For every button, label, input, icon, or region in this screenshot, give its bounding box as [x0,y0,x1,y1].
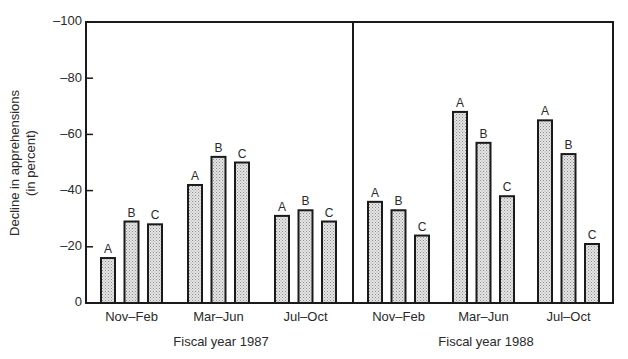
bar-series-label: C [588,228,597,242]
bar-fiscal-year-1987-2-a [275,216,289,303]
y-axis-ticks: 0–20–40–60–80–100 [53,13,93,309]
x-category-label: Nov–Feb [105,309,158,324]
bar-series-label: B [394,194,402,208]
y-tick-label: –40 [60,182,82,197]
panel-label: Fiscal year 1987 [173,334,268,349]
bar-fiscal-year-1988-0-a [368,202,382,303]
y-tick-label: 0 [75,294,82,309]
x-category-label: Nov–Feb [372,309,425,324]
bar-series-label: A [278,200,286,214]
bar-series-label: A [541,104,549,118]
bar-series-label: C [238,147,247,161]
bar-fiscal-year-1987-0-c [148,224,162,303]
bar-fiscal-year-1988-1-c [500,196,514,303]
panel-label: Fiscal year 1988 [438,334,533,349]
bar-fiscal-year-1988-1-b [477,143,491,303]
bar-series-label: C [503,180,512,194]
x-category-label: Jul–Oct [546,309,590,324]
x-category-label: Mar–Jun [458,309,509,324]
y-tick-label: –60 [60,126,82,141]
bars-layer: ABCABCABCABCABCABC [101,96,599,303]
bar-series-label: B [214,141,222,155]
bar-fiscal-year-1987-1-b [212,157,226,303]
bar-fiscal-year-1987-1-c [235,163,249,304]
bar-series-label: B [301,194,309,208]
bar-fiscal-year-1987-2-b [299,210,313,303]
bar-series-label: B [564,138,572,152]
bar-fiscal-year-1988-0-b [392,210,406,303]
y-tick-label: –100 [53,13,82,28]
bar-fiscal-year-1988-2-c [585,244,599,303]
bar-series-label: C [325,206,334,220]
bar-fiscal-year-1987-0-b [125,222,139,303]
bar-series-label: B [127,206,135,220]
bar-series-label: A [371,186,379,200]
x-axis-labels: Nov–FebMar–JunJul–OctFiscal year 1987Nov… [105,309,591,349]
bar-series-label: A [191,169,199,183]
x-category-label: Mar–Jun [193,309,244,324]
plot-frame [86,22,613,303]
bar-fiscal-year-1988-0-c [415,236,429,303]
bar-fiscal-year-1988-1-a [453,112,467,303]
bar-series-label: C [151,208,160,222]
bar-series-label: C [418,220,427,234]
y-axis-label-line-1: Decline in apprehensions [7,90,22,236]
bar-series-label: A [456,96,464,110]
bar-fiscal-year-1987-1-a [188,185,202,303]
y-axis-label-line-2: (in percent) [23,130,38,196]
x-category-label: Jul–Oct [283,309,327,324]
y-axis-label: Decline in apprehensions (in percent) [7,90,38,236]
bar-series-label: B [479,127,487,141]
bar-series-label: A [104,242,112,256]
bar-fiscal-year-1988-2-a [538,120,552,303]
bar-fiscal-year-1988-2-b [562,154,576,303]
bar-fiscal-year-1987-0-a [101,258,115,303]
bar-chart: Decline in apprehensions (in percent) 0–… [0,0,628,359]
bar-fiscal-year-1987-2-c [322,222,336,303]
y-tick-label: –20 [60,238,82,253]
y-tick-label: –80 [60,70,82,85]
